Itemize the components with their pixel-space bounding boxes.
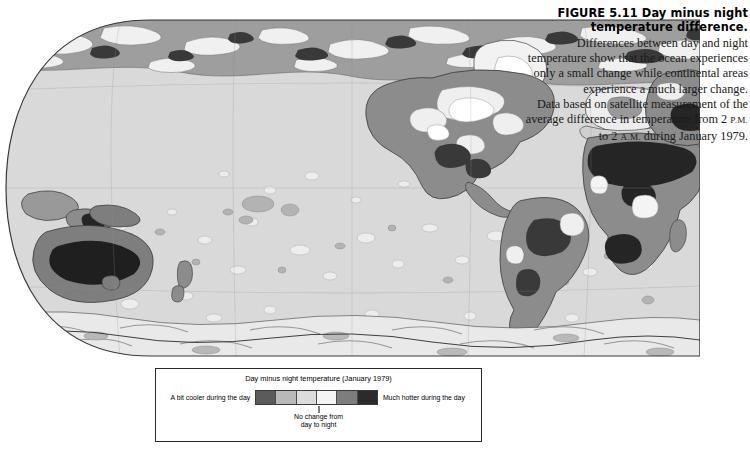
caption-am: A.M. (621, 132, 641, 142)
legend-swatch-hotter (337, 391, 357, 404)
caption-p2-post: during January 1979. (641, 129, 748, 143)
legend-mid-line-2: day to night (156, 421, 481, 429)
region-australia (33, 225, 153, 302)
legend-scale-row: A bit cooler during the day Much hotter … (156, 389, 481, 405)
figure-caption: FIGURE 5.11 Day minus night temperature … (520, 6, 748, 145)
caption-pm: P.M. (730, 115, 748, 125)
figure-container: FIGURE 5.11 Day minus night temperature … (0, 0, 750, 452)
legend-swatch-a-bit-cooler (256, 391, 276, 404)
legend-midpoint-label: No change from day to night (156, 413, 481, 430)
legend-mid-line-1: No change from (156, 413, 481, 421)
figure-caption-body: Differences between day and night temper… (520, 36, 748, 145)
caption-paragraph-2: Data based on satellite measurement of t… (526, 97, 748, 143)
legend-swatch-much-hotter (358, 391, 377, 404)
legend-title: Day minus night temperature (January 197… (156, 374, 481, 383)
legend-color-ramp (255, 390, 378, 405)
legend-swatch-slightly-hotter (317, 391, 337, 404)
legend-right-label: Much hotter during the day (378, 394, 481, 401)
legend-swatch-slightly-cooler (276, 391, 296, 404)
legend-left-label: A bit cooler during the day (156, 394, 255, 401)
figure-caption-title: FIGURE 5.11 Day minus night temperature … (520, 6, 748, 35)
caption-paragraph-1: Differences between day and night temper… (520, 36, 748, 97)
caption-p2-pre: Data based on satellite measurement of t… (526, 97, 748, 126)
map-legend: Day minus night temperature (January 197… (155, 368, 482, 442)
caption-p2-mid: to 2 (599, 129, 621, 143)
legend-swatch-no-change (297, 391, 317, 404)
